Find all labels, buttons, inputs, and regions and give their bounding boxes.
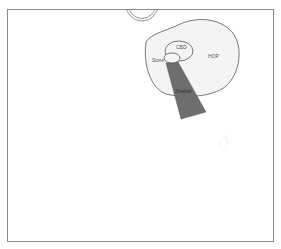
store-label: Store: [152, 57, 164, 63]
cbd-label: CBD: [176, 44, 187, 50]
hop-label: HOP: [208, 53, 220, 59]
diagram-canvas: CBD HOP Store Shadow: [0, 0, 281, 249]
store-region: [164, 53, 180, 63]
shadow-label: Shadow: [175, 89, 192, 94]
